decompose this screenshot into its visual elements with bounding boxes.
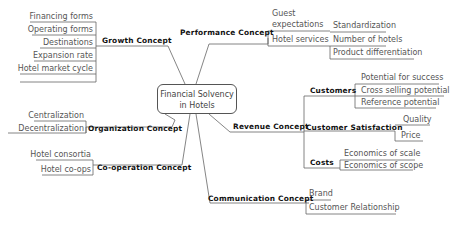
economics-of-scale-node[interactable]: Economics of scale bbox=[344, 149, 420, 159]
financing-forms-node[interactable]: Financing forms bbox=[4, 12, 93, 22]
central-topic-node[interactable]: Financial Solvency in Hotels bbox=[157, 84, 237, 114]
economics-of-scope-node[interactable]: Economics of scope bbox=[344, 161, 423, 171]
customer-satisfaction-node[interactable]: Customer Satisfaction bbox=[306, 123, 403, 133]
number-of-hotels-node[interactable]: Number of hotels bbox=[333, 35, 402, 45]
costs-node[interactable]: Costs bbox=[310, 158, 334, 168]
central-topic-line-1: Financial Solvency bbox=[158, 89, 236, 100]
destinations-node[interactable]: Destinations bbox=[4, 38, 93, 48]
performance-concept-node[interactable]: Performance Concept bbox=[180, 28, 274, 38]
hotel-co-ops-node[interactable]: Hotel co-ops bbox=[4, 165, 91, 175]
brand-node[interactable]: Brand bbox=[309, 189, 333, 199]
hotel-market-cycle-node[interactable]: Hotel market cycle bbox=[4, 64, 93, 74]
hotel-consortia-node[interactable]: Hotel consortia bbox=[4, 150, 91, 160]
organization-concept-node[interactable]: Organization Concept bbox=[88, 124, 182, 134]
standardization-node[interactable]: Standardization bbox=[333, 21, 396, 31]
decentralization-node[interactable]: Decentralization bbox=[4, 124, 84, 134]
centralization-node[interactable]: Centralization bbox=[4, 111, 84, 121]
price-node[interactable]: Price bbox=[401, 131, 421, 141]
expansion-rate-node[interactable]: Expansion rate bbox=[4, 51, 93, 61]
hotel-services-node[interactable]: Hotel services bbox=[272, 35, 329, 45]
operating-forms-node[interactable]: Operating forms bbox=[4, 25, 93, 35]
customers-node[interactable]: Customers bbox=[310, 86, 356, 96]
guest-expectations-node-line-2[interactable]: expectations bbox=[272, 20, 323, 30]
cross-selling-potential-node[interactable]: Cross selling potential bbox=[361, 86, 450, 96]
quality-node[interactable]: Quality bbox=[403, 115, 432, 125]
central-topic-line-2: in Hotels bbox=[158, 100, 236, 111]
growth-concept-node[interactable]: Growth Concept bbox=[102, 36, 172, 46]
communication-concept-node[interactable]: Communication Concept bbox=[208, 194, 314, 204]
mind-map-canvas: Financial Solvency in Hotels Growth Conc… bbox=[0, 0, 467, 227]
co-operation-concept-node[interactable]: Co-operation Concept bbox=[97, 163, 192, 173]
product-differentiation-node[interactable]: Product differentiation bbox=[333, 48, 422, 58]
potential-for-success-node[interactable]: Potential for success bbox=[361, 73, 443, 83]
guest-expectations-node-line-1[interactable]: Guest bbox=[272, 9, 296, 19]
customer-relationship-node[interactable]: Customer Relationship bbox=[309, 203, 400, 213]
revenue-concept-node[interactable]: Revenue Concept bbox=[233, 122, 309, 132]
reference-potential-node[interactable]: Reference potential bbox=[361, 98, 439, 108]
